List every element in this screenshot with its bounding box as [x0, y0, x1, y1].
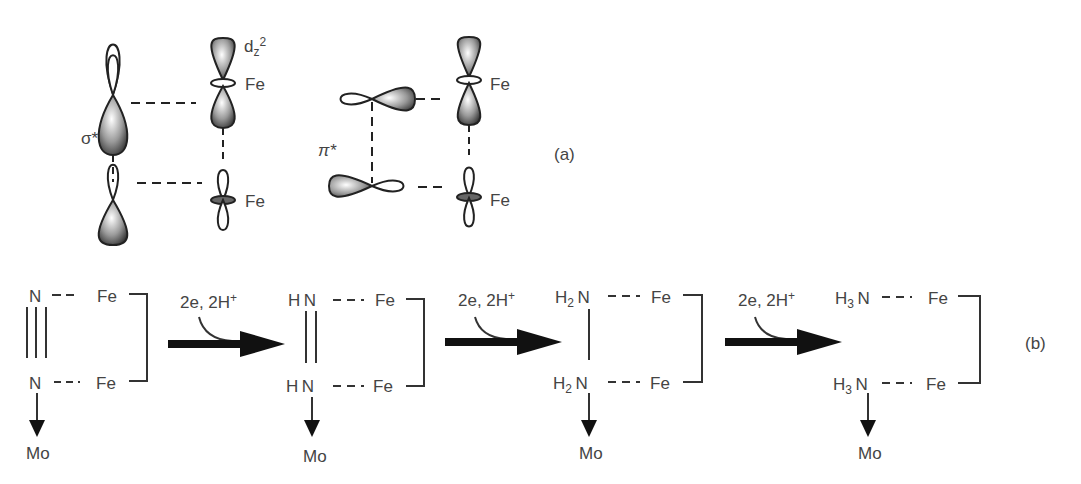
- diagram-canvas: [0, 0, 1081, 484]
- step2-mo: Mo: [303, 448, 327, 465]
- step2-fe-bottom: Fe: [373, 378, 393, 395]
- fe-label-sigma-bottom: Fe: [245, 193, 265, 210]
- step3-fe-top: Fe: [651, 289, 671, 306]
- panel-label-a: (a): [554, 146, 575, 163]
- pi-star-bonds: [372, 99, 469, 187]
- step2-fe-top: Fe: [375, 292, 395, 309]
- sigma-star-label: σ*: [81, 130, 98, 147]
- step1-fe-bottom: Fe: [96, 375, 116, 392]
- step1-n-top: N: [29, 288, 41, 305]
- step3-fe-bottom: Fe: [650, 375, 670, 392]
- fe-label-sigma-top: Fe: [245, 76, 265, 93]
- pi-star-label: π*: [318, 142, 336, 159]
- p-orbital-lobe-shaded: [99, 95, 128, 155]
- step2-hn-top: H N: [288, 292, 316, 309]
- dz2-orbital-top: [211, 38, 234, 80]
- step4-h3n-top: H3 N: [835, 290, 870, 310]
- panel-label-b: (b): [1025, 335, 1046, 352]
- step1-fe-top: Fe: [97, 288, 117, 305]
- pi-star-orbital-set: [329, 37, 481, 227]
- step3-h2n-top: H2 N: [555, 289, 590, 309]
- sigma-star-bonds: [113, 103, 223, 183]
- reaction-scheme-lines: [27, 294, 980, 420]
- step3-h2n-bottom: H2 N: [553, 375, 588, 395]
- sigma-star-orbital-set: [99, 38, 235, 245]
- step4-fe-bottom: Fe: [926, 376, 946, 393]
- reagent-2: 2e, 2H+: [458, 290, 515, 309]
- step4-h3n-bottom: H3 N: [833, 376, 868, 396]
- step4-mo: Mo: [858, 445, 882, 462]
- dz2-label: dz2: [244, 36, 266, 58]
- step1-mo: Mo: [26, 445, 50, 462]
- reagent-1: 2e, 2H+: [180, 292, 237, 311]
- fe-label-pi-bottom: Fe: [490, 192, 510, 209]
- reaction-arrows[interactable]: [29, 329, 876, 437]
- step1-n-bottom: N: [29, 375, 41, 392]
- step4-fe-top: Fe: [928, 290, 948, 307]
- fe-label-pi-top: Fe: [490, 76, 510, 93]
- reagent-3: 2e, 2H+: [738, 290, 795, 309]
- step2-hn-bottom: H N: [286, 378, 314, 395]
- step3-mo: Mo: [579, 445, 603, 462]
